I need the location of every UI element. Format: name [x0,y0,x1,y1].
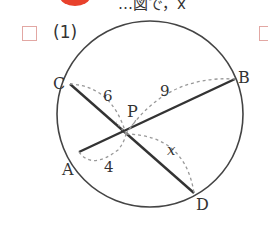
length-PD: x [167,141,176,159]
circle [57,21,243,207]
label-C: C [53,74,65,93]
label-A: A [61,160,74,179]
length-PB: 9 [160,82,170,100]
chord-CD [70,84,194,193]
label-P: P [127,102,138,121]
length-CP: 6 [103,87,113,105]
label-B: B [238,68,250,87]
label-D: D [196,195,209,214]
circle-chord-figure: C B A D P 6 9 4 x [0,0,268,228]
arc-AP [79,134,126,161]
length-AP: 4 [104,158,114,176]
